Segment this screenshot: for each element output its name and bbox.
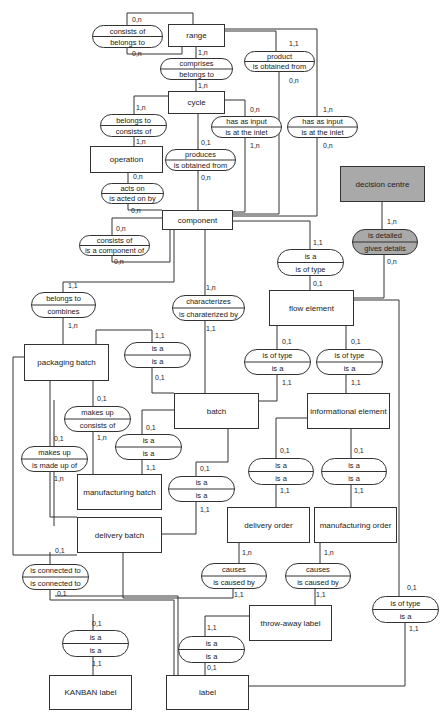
- cardinality-label: 1,n: [54, 475, 64, 482]
- cardinality-label: 0,1: [92, 620, 102, 627]
- relationship-forward-label: consists of: [110, 27, 146, 36]
- entity-cycle[interactable]: cycle: [169, 92, 225, 114]
- cardinality-label: 1,n: [68, 322, 78, 329]
- entity-label: batch: [207, 407, 227, 416]
- relationship-forward-label: is of type: [390, 599, 420, 608]
- cardinality-label: 1,1: [354, 487, 364, 494]
- cardinality-label: 1,1: [234, 591, 244, 598]
- entity-manufacturing-order[interactable]: manufacturing order: [315, 508, 397, 543]
- relationship-forward-label: is a: [143, 436, 156, 445]
- relationship-reverse-label: is of type: [295, 265, 325, 274]
- entity-label: label: [199, 688, 216, 697]
- relationship-is-a-packaging[interactable]: is ais a: [125, 343, 191, 368]
- cardinality-label: 1,n: [242, 549, 252, 556]
- relationship-has-input-1[interactable]: has as inputis at the inlet: [212, 117, 282, 138]
- cardinality-label: 0,1: [201, 139, 211, 146]
- relationship-belongs-to-cycle[interactable]: belongs toconsists of: [101, 115, 167, 137]
- entity-delivery-order[interactable]: delivery order: [228, 508, 310, 543]
- relationship-causes-2[interactable]: causesis caused by: [286, 564, 351, 589]
- relationship-belongs-to-combines[interactable]: belongs tocombines: [32, 293, 96, 318]
- relationship-is-a-flow[interactable]: is ais of type: [278, 250, 344, 276]
- cardinality-label: 0,n: [201, 174, 211, 181]
- cardinality-label: 1,1: [68, 282, 78, 289]
- relationship-reverse-label: is a: [344, 364, 357, 373]
- relationship-reverse-label: is obtained from: [253, 62, 306, 71]
- entity-informational-element[interactable]: informational element: [308, 394, 390, 429]
- entity-manufacturing-batch[interactable]: manufacturing batch: [78, 475, 162, 510]
- relationship-makes-up-made-of[interactable]: makes upis made up of: [22, 447, 88, 472]
- relationship-forward-label: is a: [275, 461, 288, 470]
- relationship-reverse-label: is a: [90, 646, 103, 655]
- relationship-forward-label: is a: [305, 252, 318, 261]
- relationship-is-of-type-label[interactable]: is of typeis a: [373, 597, 439, 623]
- cardinality-label: 0,n: [116, 225, 126, 232]
- cardinality-label: 0,1: [207, 664, 217, 671]
- relationship-is-a-manufacturing[interactable]: is ais a: [116, 435, 182, 460]
- connector-line: [96, 330, 152, 344]
- entity-throw-away-label[interactable]: throw-away label: [250, 606, 332, 641]
- cardinality-label: 0,n: [133, 173, 143, 180]
- relationship-forward-label: has as input: [226, 117, 267, 126]
- entity-batch[interactable]: batch: [175, 394, 259, 429]
- cardinality-label: 0,1: [407, 584, 417, 591]
- relationship-product[interactable]: productis obtained from: [245, 52, 315, 72]
- relationship-is-a-throwaway[interactable]: is ais a: [179, 637, 245, 663]
- cardinality-label: 0,1: [200, 465, 210, 472]
- entity-kanban-label[interactable]: KANBAN label: [50, 676, 132, 710]
- relationship-reverse-label: gives details: [364, 244, 406, 253]
- relationship-reverse-label: is a: [275, 474, 288, 483]
- cardinality-label: 1,1: [200, 506, 210, 513]
- er-diagram: consists ofbelongs tocomprisesbelongs to…: [0, 0, 448, 719]
- relationship-is-of-type-batch[interactable]: is of typeis a: [245, 350, 311, 375]
- entity-label: KANBAN label: [64, 688, 116, 697]
- relationship-is-connected-to[interactable]: is connected tois connected to: [23, 565, 89, 590]
- relationship-acts-on[interactable]: acts onis acted on by: [102, 184, 164, 204]
- entity-packaging-batch[interactable]: packaging batch: [25, 345, 109, 381]
- relationship-forward-label: is of type: [262, 351, 292, 360]
- entity-label: informational element: [310, 407, 387, 416]
- entity-label: delivery order: [244, 521, 293, 530]
- relationship-reverse-label: belongs to: [110, 38, 145, 47]
- relationship-produces[interactable]: producesis obtained from: [166, 150, 236, 171]
- relationship-consists-of-range[interactable]: consists ofbelongs to: [93, 26, 163, 48]
- cardinality-label: 0,1: [146, 424, 156, 431]
- connector-line: [232, 137, 245, 212]
- cardinality-label: 0,1: [54, 435, 64, 442]
- relationship-is-detailed[interactable]: is detailedgives details: [353, 230, 418, 255]
- cardinality-label: 0,1: [55, 547, 65, 554]
- cardinality-label: 1,n: [136, 138, 146, 145]
- entity-label: manufacturing order: [320, 521, 392, 530]
- entity-label: component: [178, 216, 218, 225]
- relationship-is-a-manufacturing-order[interactable]: is ais a: [322, 459, 387, 485]
- relationship-is-a-kanban[interactable]: is ais a: [63, 631, 129, 657]
- relationship-characterizes[interactable]: characterizesis charaterized by: [173, 296, 245, 321]
- relationship-forward-label: is connected to: [30, 566, 80, 575]
- relationship-is-a-delivery-batch[interactable]: is ais a: [169, 477, 235, 502]
- relationship-forward-label: is a: [152, 344, 165, 353]
- relationship-has-input-2[interactable]: has as inputis at the inlet: [288, 117, 358, 138]
- entity-label[interactable]: label: [167, 676, 249, 710]
- entity-label: packaging batch: [37, 358, 95, 367]
- relationship-reverse-label: is a: [400, 612, 413, 621]
- relationship-comprises[interactable]: comprisesbelongs to: [161, 59, 233, 80]
- entity-component[interactable]: component: [163, 211, 233, 230]
- relationship-is-a-delivery-order[interactable]: is ais a: [249, 459, 314, 485]
- entity-label: operation: [110, 155, 143, 164]
- relationship-makes-up-consists[interactable]: makes upconsists of: [65, 407, 131, 432]
- entity-range[interactable]: range: [169, 25, 225, 47]
- entity-delivery-batch[interactable]: delivery batch: [78, 518, 162, 553]
- connector-line: [224, 31, 276, 51]
- relationship-is-of-type-info[interactable]: is of typeis a: [317, 350, 383, 375]
- relationship-forward-label: consists of: [97, 236, 133, 245]
- relationship-consists-of-component[interactable]: consists ofis a component of: [80, 236, 150, 256]
- cardinality-label: 0,n: [114, 258, 124, 265]
- cardinality-label: 0,1: [313, 280, 323, 287]
- entity-decision-centre[interactable]: decision centre: [341, 167, 425, 202]
- relationship-reverse-label: is a: [348, 474, 361, 483]
- relationship-reverse-label: is obtained from: [174, 161, 227, 170]
- entity-operation[interactable]: operation: [91, 147, 163, 173]
- cardinality-label: 0,1: [57, 590, 67, 597]
- entity-flow-element[interactable]: flow element: [270, 291, 354, 326]
- cardinality-label: 1,n: [250, 142, 260, 149]
- relationship-causes-1[interactable]: causesis caused by: [202, 564, 267, 589]
